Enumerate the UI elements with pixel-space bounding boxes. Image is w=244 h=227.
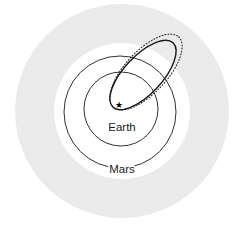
shaded-annulus: [0, 0, 244, 227]
orbit-diagram-figure: ★ Earth Earth Mars Mars: [0, 0, 244, 227]
mars-orbit-label: Mars: [109, 163, 135, 175]
earth-orbit-label: Earth: [108, 121, 136, 133]
star-marker-icon: ★: [115, 100, 123, 110]
orbit-diagram-canvas: ★ Earth Earth Mars Mars: [0, 0, 244, 227]
